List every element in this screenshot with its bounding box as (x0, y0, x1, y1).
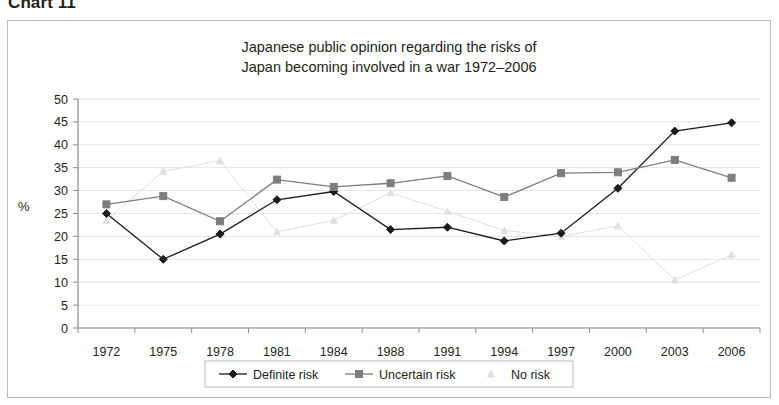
x-axis-tick-label: 1994 (490, 345, 518, 359)
data-point-marker (671, 156, 678, 163)
y-axis-tick-label: 45 (54, 115, 68, 129)
y-axis-tick-label: 50 (54, 93, 68, 107)
data-point-marker (160, 193, 167, 200)
x-axis-tick-label: 1981 (263, 345, 291, 359)
legend-item-uncertain-risk[interactable]: Uncertain risk (345, 368, 456, 382)
data-point-marker (444, 172, 451, 179)
data-point-marker (443, 223, 451, 231)
legend-label: Definite risk (253, 368, 319, 382)
x-axis-tick-label: 1988 (377, 345, 405, 359)
data-point-marker (273, 196, 281, 204)
data-point-marker (614, 169, 621, 176)
data-point-marker (501, 227, 508, 234)
data-point-marker (229, 370, 237, 378)
data-point-marker (330, 217, 337, 224)
x-axis-tick-label: 2000 (604, 345, 632, 359)
legend-label: Uncertain risk (379, 368, 456, 382)
y-axis-tick-label: 20 (54, 230, 68, 244)
chart-container: 05101520253035404550 1972197519781981198… (7, 20, 771, 398)
y-axis-tick-label: 5 (61, 299, 68, 313)
y-axis-tick-label: 10 (54, 276, 68, 290)
data-point-marker (217, 157, 224, 164)
y-axis-title: % (18, 199, 30, 214)
data-point-marker (728, 251, 735, 258)
grid-layer (78, 99, 760, 328)
x-axis-tick-label: 1997 (547, 345, 575, 359)
series-layer (102, 119, 735, 283)
x-axis-tick-label: 2003 (661, 345, 689, 359)
data-point-marker (216, 230, 224, 238)
y-axis-tick-label: 30 (54, 184, 68, 198)
data-point-marker (501, 194, 508, 201)
data-point-marker (330, 183, 337, 190)
series-no-risk (103, 157, 735, 283)
y-axis-tick-label: 35 (54, 161, 68, 175)
chart-title-line-2: Japan becoming involved in a war 1972–20… (241, 59, 536, 75)
data-point-marker (488, 371, 495, 378)
chart-title-line-1: Japanese public opinion regarding the ri… (241, 39, 537, 55)
x-axis-tick-label: 1978 (206, 345, 234, 359)
x-axis-tick-label: 1991 (434, 345, 462, 359)
data-point-marker (217, 218, 224, 225)
line-chart: 05101520253035404550 1972197519781981198… (8, 21, 770, 397)
data-point-marker (356, 371, 363, 378)
y-axis-tick-label: 15 (54, 253, 68, 267)
axis-layer (73, 99, 760, 333)
series-line (106, 161, 731, 280)
data-point-marker (387, 226, 395, 234)
data-point-marker (444, 208, 451, 215)
x-axis-tick-label: 1984 (320, 345, 348, 359)
y-axis-tick-label: 40 (54, 138, 68, 152)
data-point-marker (103, 201, 110, 208)
data-point-marker (273, 176, 280, 183)
data-point-marker (728, 119, 736, 127)
legend-item-no-risk[interactable]: No risk (488, 368, 551, 382)
y-axis-tick-label: 0 (61, 322, 68, 336)
figure-caption: Chart 11 (8, 0, 76, 13)
y-axis-tick-labels: 05101520253035404550 (54, 93, 68, 336)
chart-legend: Definite riskUncertain riskNo risk (205, 361, 573, 387)
y-axis-tick-label: 25 (54, 207, 68, 221)
x-axis-tick-label: 1972 (93, 345, 121, 359)
data-point-marker (728, 174, 735, 181)
x-axis-tick-labels: 1972197519781981198419881991199419972000… (93, 345, 746, 359)
data-point-marker (387, 180, 394, 187)
legend-label: No risk (511, 368, 551, 382)
legend-item-definite-risk[interactable]: Definite risk (219, 368, 319, 382)
x-axis-tick-label: 1975 (149, 345, 177, 359)
data-point-marker (614, 222, 621, 229)
data-point-marker (558, 170, 565, 177)
x-axis-tick-label: 2006 (718, 345, 746, 359)
data-point-marker (500, 237, 508, 245)
